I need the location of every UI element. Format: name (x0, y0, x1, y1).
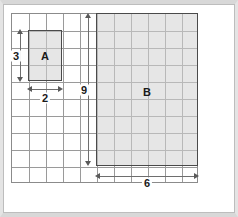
grid-line-horizontal (12, 167, 197, 168)
dimension-line-a-width (30, 89, 60, 90)
grid-line-vertical (63, 14, 64, 182)
dimension-label-b-width: 6 (142, 178, 152, 189)
dimension-arrow-b-width-left (95, 173, 100, 179)
dimension-arrow-a-width-left (27, 86, 32, 92)
dimension-label-b-height: 9 (79, 85, 89, 96)
plot-area: B A 3 2 9 6 (11, 13, 226, 191)
figure-canvas: B A 3 2 9 6 (0, 0, 238, 217)
shape-label-a: A (41, 51, 49, 62)
dimension-arrow-b-height-bottom (85, 161, 91, 166)
dimension-arrow-a-height-top (17, 29, 23, 34)
dimension-arrow-a-width-right (58, 86, 63, 92)
grid-line-vertical (80, 14, 81, 182)
dimension-arrow-b-width-right (194, 173, 199, 179)
dimension-arrow-a-height-bottom (17, 77, 23, 82)
dimension-label-a-height: 3 (11, 51, 21, 62)
shape-label-b: B (143, 87, 151, 98)
dimension-arrow-b-height-top (85, 13, 91, 18)
dimension-label-a-width: 2 (40, 93, 50, 104)
